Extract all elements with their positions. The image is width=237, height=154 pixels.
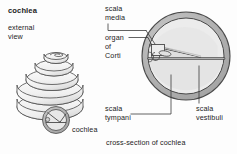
cochlea-illustration <box>0 0 237 154</box>
figure-canvas: cochlea external view cochlea scala medi… <box>0 0 237 154</box>
cochlea-cross-section-diagram <box>142 12 230 100</box>
shell-cs-modiolus <box>46 117 50 121</box>
leader-scala-media-1 <box>108 24 146 31</box>
shell-base-cross-section <box>43 107 70 134</box>
